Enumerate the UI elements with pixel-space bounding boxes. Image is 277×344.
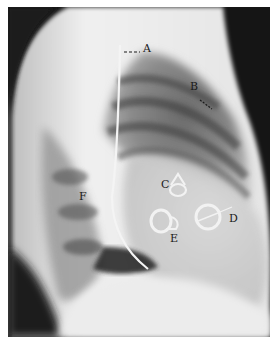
xray-image: A B C D E F <box>8 7 270 337</box>
label-d: D <box>229 213 238 224</box>
radiograph-illustration <box>8 7 270 337</box>
label-c: C <box>161 179 169 190</box>
label-a: A <box>143 43 151 54</box>
label-f: F <box>79 191 87 202</box>
label-b: B <box>190 81 198 92</box>
label-e: E <box>170 233 178 244</box>
